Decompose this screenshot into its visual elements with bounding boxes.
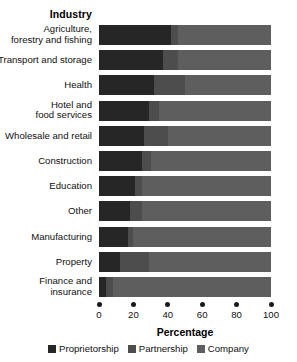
bar-segment-partnership: [163, 50, 178, 70]
tick-label: 100: [256, 309, 286, 320]
legend-item[interactable]: Partnership: [128, 343, 188, 354]
bar-segment-proprietorship: [99, 50, 163, 70]
bar-segment-company: [142, 201, 271, 221]
bar-segment-company: [178, 25, 271, 45]
bar-segment-company: [185, 75, 271, 95]
tick-label: 80: [222, 309, 252, 320]
chart-row: Health: [99, 75, 271, 95]
legend-label: Company: [208, 343, 249, 354]
stacked-bar: [99, 126, 271, 146]
bar-segment-partnership: [154, 75, 185, 95]
stacked-bar: [99, 227, 271, 247]
x-axis-tick: 60: [187, 302, 217, 320]
stacked-bar: [99, 101, 271, 121]
tick-dot-icon: [200, 302, 205, 307]
tick-label: 40: [153, 309, 183, 320]
bar-segment-partnership: [142, 151, 151, 171]
y-axis-title: Industry: [0, 8, 92, 20]
bar-segment-proprietorship: [99, 25, 171, 45]
chart-row: Finance and insurance: [99, 277, 271, 297]
tick-label: 60: [187, 309, 217, 320]
bar-segment-partnership: [171, 25, 178, 45]
stacked-bar: [99, 75, 271, 95]
category-label: Construction: [0, 156, 92, 167]
category-label: Transport and storage: [0, 55, 92, 66]
x-axis-tick: 20: [118, 302, 148, 320]
tick-dot-icon: [97, 302, 102, 307]
legend-item[interactable]: Company: [197, 343, 249, 354]
bar-segment-company: [133, 227, 271, 247]
bar-segment-proprietorship: [99, 252, 120, 272]
bar-segment-partnership: [120, 252, 149, 272]
legend-swatch-icon: [48, 345, 56, 353]
bar-segment-partnership: [149, 101, 159, 121]
chart-row: Agriculture, forestry and fishing: [99, 25, 271, 45]
legend-swatch-icon: [128, 345, 136, 353]
bar-segment-company: [142, 176, 271, 196]
bar-segment-proprietorship: [99, 227, 128, 247]
bar-segment-partnership: [144, 126, 168, 146]
bar-segment-company: [151, 151, 271, 171]
tick-dot-icon: [234, 302, 239, 307]
x-axis: 020406080100: [99, 302, 271, 328]
bar-segment-partnership: [135, 176, 142, 196]
bar-segment-proprietorship: [99, 151, 142, 171]
category-label: Manufacturing: [0, 231, 92, 242]
chart-row: Education: [99, 176, 271, 196]
tick-label: 0: [84, 309, 114, 320]
bar-segment-partnership: [106, 277, 113, 297]
chart-row: Transport and storage: [99, 50, 271, 70]
category-label: Other: [0, 206, 92, 217]
stacked-bar: [99, 252, 271, 272]
chart-legend: ProprietorshipPartnershipCompany: [0, 343, 297, 354]
stacked-bar: [99, 176, 271, 196]
bar-segment-proprietorship: [99, 201, 130, 221]
bar-segment-company: [159, 101, 271, 121]
bar-segment-company: [178, 50, 271, 70]
bar-segment-proprietorship: [99, 126, 144, 146]
chart-row: Manufacturing: [99, 227, 271, 247]
stacked-bar: [99, 201, 271, 221]
bar-segment-proprietorship: [99, 277, 106, 297]
bar-segment-company: [168, 126, 271, 146]
legend-label: Proprietorship: [59, 343, 119, 354]
legend-label: Partnership: [139, 343, 188, 354]
tick-dot-icon: [165, 302, 170, 307]
chart-row: Wholesale and retail: [99, 126, 271, 146]
legend-swatch-icon: [197, 345, 205, 353]
chart-row: Property: [99, 252, 271, 272]
tick-label: 20: [118, 309, 148, 320]
bar-segment-partnership: [130, 201, 142, 221]
category-label: Finance and insurance: [0, 276, 92, 297]
category-label: Health: [0, 80, 92, 91]
stacked-bar: [99, 151, 271, 171]
chart-row: Hotel and food services: [99, 101, 271, 121]
bar-segment-proprietorship: [99, 75, 154, 95]
stacked-bar: [99, 277, 271, 297]
category-label: Agriculture, forestry and fishing: [0, 24, 92, 45]
x-axis-tick: 40: [153, 302, 183, 320]
plot-area: Agriculture, forestry and fishingTranspo…: [99, 25, 271, 302]
bar-segment-proprietorship: [99, 176, 135, 196]
legend-item[interactable]: Proprietorship: [48, 343, 119, 354]
x-axis-tick: 100: [256, 302, 286, 320]
stacked-bar: [99, 25, 271, 45]
bar-segment-company: [113, 277, 271, 297]
tick-dot-icon: [269, 302, 274, 307]
tick-dot-icon: [131, 302, 136, 307]
bar-segment-proprietorship: [99, 101, 149, 121]
x-axis-tick: 0: [84, 302, 114, 320]
chart-row: Construction: [99, 151, 271, 171]
bar-segment-company: [149, 252, 271, 272]
stacked-bar-chart: Industry Agriculture, forestry and fishi…: [0, 0, 297, 362]
stacked-bar: [99, 50, 271, 70]
x-axis-title: Percentage: [99, 326, 271, 338]
category-label: Hotel and food services: [0, 100, 92, 121]
chart-row: Other: [99, 201, 271, 221]
category-label: Education: [0, 181, 92, 192]
category-label: Property: [0, 257, 92, 268]
category-label: Wholesale and retail: [0, 131, 92, 142]
x-axis-tick: 80: [222, 302, 252, 320]
